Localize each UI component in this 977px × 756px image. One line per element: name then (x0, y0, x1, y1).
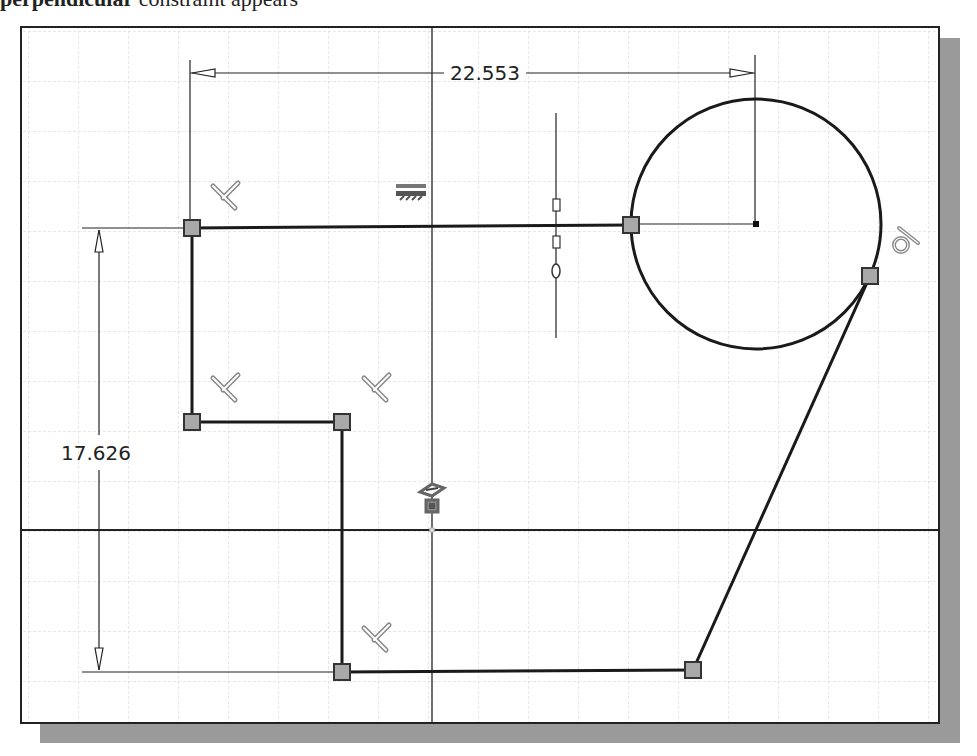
vertical-marker-icon (553, 199, 560, 211)
dimension-value-horizontal: 22.553 (450, 61, 520, 85)
point-bottom-left (334, 664, 350, 680)
point-tangent (862, 268, 878, 284)
dimension-value-vertical: 17.626 (61, 441, 131, 465)
point-step (334, 414, 350, 430)
point-bottom-right (685, 662, 701, 678)
point-circle-left (623, 217, 639, 233)
point-top-left (184, 220, 200, 236)
grid (22, 28, 938, 722)
point-mid-left (184, 414, 200, 430)
circle-center-point[interactable] (753, 221, 759, 227)
vertical-marker-icon (553, 236, 560, 248)
sketch-drawing[interactable]: 22.553 17.626 (0, 0, 977, 756)
zero-marker-icon (552, 264, 560, 278)
